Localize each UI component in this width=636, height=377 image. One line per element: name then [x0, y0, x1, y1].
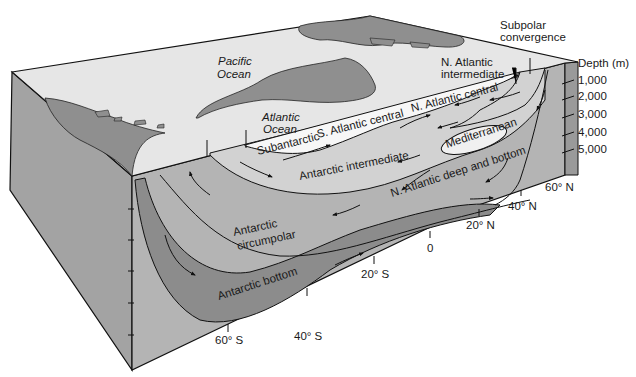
- depth-tick-2000: 2,000: [578, 90, 607, 102]
- lat-tick-60s: 60° S: [215, 334, 244, 346]
- depth-tick-1000: 1,000: [578, 74, 607, 86]
- label-atlantic-ocean-2: Ocean: [263, 123, 297, 135]
- lat-tick-40s: 40° S: [294, 330, 323, 342]
- label-pacific-ocean: Pacific: [218, 55, 252, 67]
- lat-tick-20s: 20° S: [361, 268, 390, 280]
- depth-tick-4000: 4,000: [578, 126, 607, 138]
- label-subpolar-convergence: Subpolar: [500, 19, 546, 31]
- lat-tick-40n: 40° N: [508, 200, 537, 212]
- label-n-atlantic-intermediate-2: intermediate: [441, 68, 504, 80]
- ocean-circulation-diagram: Pacific Ocean Atlantic Ocean Subantarcti…: [0, 0, 636, 377]
- label-atlantic-ocean: Atlantic: [261, 111, 300, 123]
- lat-tick-0: 0: [427, 242, 433, 254]
- depth-tick-5000: 5,000: [578, 143, 607, 155]
- label-n-atlantic-intermediate: N. Atlantic: [441, 56, 493, 68]
- lat-tick-60n: 60° N: [545, 181, 574, 193]
- depth-axis-title: Depth (m): [578, 57, 629, 69]
- block-east-face: [565, 62, 578, 175]
- depth-tick-3000: 3,000: [578, 108, 607, 120]
- lat-tick-20n: 20° N: [466, 219, 495, 231]
- label-subpolar-convergence-2: convergence: [500, 31, 566, 43]
- label-pacific-ocean-2: Ocean: [217, 68, 251, 80]
